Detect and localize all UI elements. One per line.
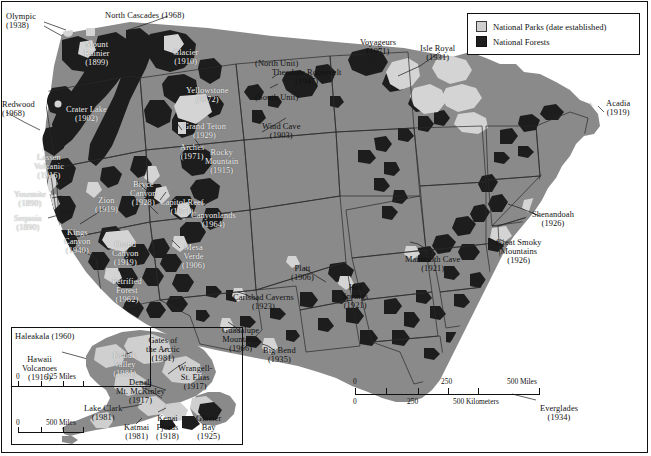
parks-swatch-icon (476, 21, 487, 32)
scale-main-km-250: 250 (407, 397, 418, 406)
scale-ak-tick-b (63, 427, 64, 433)
scale-tick-b (418, 388, 419, 394)
scale-main-miles-250: 250 (441, 377, 452, 386)
scale-hi-tick-b (63, 381, 64, 387)
map-legend: National Parks (date established) Nation… (467, 13, 640, 55)
scale-tick-d (478, 388, 479, 394)
scale-ak-tick-a (41, 427, 42, 433)
scale-ak-0: 0 (16, 418, 20, 427)
hawaii-inset-frame (11, 327, 151, 387)
main-scale-bar: 0 250 500 Miles 0 250 500 Kilometers (355, 388, 540, 395)
scale-tick-c (448, 388, 449, 394)
scale-ak-bar (18, 427, 84, 433)
scale-main-km-0: 0 (353, 397, 357, 406)
scale-hi-tick-a (41, 381, 42, 387)
national-parks-map-figure: National Parks (date established) Nation… (0, 0, 651, 456)
scale-hi-bar (18, 381, 84, 387)
hawaii-scale-bar: 0 125 Miles (18, 381, 84, 387)
scale-tick-a (386, 388, 387, 394)
scale-main-miles-0: 0 (353, 377, 357, 386)
legend-label-forests: National Forests (493, 35, 550, 49)
scale-ak-500: 500 Miles (46, 418, 76, 427)
alaska-scale-bar: 0 500 Miles (18, 427, 84, 433)
legend-row-parks: National Parks (date established) (476, 19, 633, 34)
scale-main-miles-500: 500 Miles (507, 377, 537, 386)
scale-hi-0: 0 (16, 372, 20, 381)
legend-label-parks: National Parks (date established) (493, 20, 606, 34)
scale-hi-125: 125 Miles (46, 372, 76, 381)
legend-row-forests: National Forests (476, 34, 633, 49)
scale-main-km-500: 500 Kilometers (453, 397, 499, 406)
forests-swatch-icon (476, 36, 487, 47)
scale-main-bar (355, 388, 540, 395)
